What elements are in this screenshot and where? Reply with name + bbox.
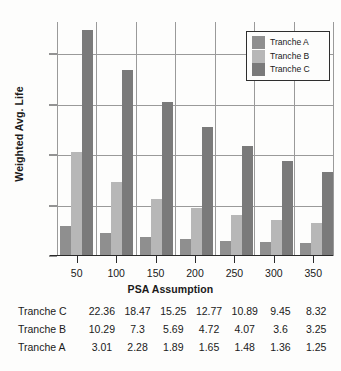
table-cell: 3.01 [84,341,120,353]
table-cell: 5.69 [155,323,191,335]
y-tick-mark [49,54,57,55]
x-tick-label-50: 50 [57,267,97,279]
bar-tranche-a-50 [60,226,71,256]
bar-tranche-c-200 [202,127,213,256]
chart-legend: Tranche A Tranche B Tranche C [246,31,330,81]
table-row: Tranche A3.012.281.891.651.481.361.25 [0,338,341,356]
table-cell: 10.89 [227,305,263,317]
x-tick-label-300: 300 [254,267,294,279]
x-tick-label-200: 200 [175,267,215,279]
y-tick-mark [49,104,57,105]
x-tick-mark [156,256,157,263]
table-cell: 9.45 [263,305,299,317]
table-cell: 1.25 [298,341,334,353]
bar-tranche-b-50 [71,152,82,256]
y-axis-title: Weighted Avg. Life [13,54,25,214]
bar-tranche-b-150 [151,199,162,256]
x-tick-label-100: 100 [96,267,136,279]
table-cell: 1.36 [263,341,299,353]
bar-tranche-b-100 [111,182,122,256]
table-cell: 4.72 [191,323,227,335]
table-cell: 1.65 [191,341,227,353]
legend-item-tranche-b: Tranche B [252,50,325,64]
table-cell: 2.28 [120,341,156,353]
table-row: Tranche B10.297.35.694.724.073.63.25 [0,320,341,338]
table-cell: 15.25 [155,305,191,317]
bar-tranche-c-100 [122,70,133,256]
bar-tranche-a-100 [100,233,111,256]
bar-tranche-a-300 [260,242,271,256]
bar-tranche-c-250 [242,146,253,256]
table-cell: 3.25 [298,323,334,335]
x-tick-mark [274,256,275,263]
bar-tranche-a-150 [140,237,151,256]
bar-tranche-c-350 [322,172,333,256]
x-tick-label-350: 350 [293,267,333,279]
legend-swatch-icon-tranche-b [252,50,265,63]
table-row-cells: 22.3618.4715.2512.7710.899.458.32 [84,305,334,317]
bar-group-200 [177,22,217,256]
bar-tranche-a-200 [180,239,191,256]
table-cell: 4.07 [227,323,263,335]
bar-tranche-c-50 [82,30,93,256]
bar-tranche-b-300 [271,220,282,256]
table-row-header: Tranche A [18,341,84,353]
table-row-header: Tranche B [18,323,84,335]
bar-tranche-c-150 [162,102,173,256]
bar-tranche-a-250 [220,241,231,256]
bar-group-100 [97,22,137,256]
x-tick-mark [313,256,314,263]
x-tick-label-250: 250 [214,267,254,279]
x-tick-mark [195,256,196,263]
x-tick-mark [234,256,235,263]
legend-item-tranche-a: Tranche A [252,36,325,50]
x-tick-mark [77,256,78,263]
bar-tranche-b-350 [311,223,322,256]
y-tick-mark [49,155,57,156]
bar-tranche-b-200 [191,208,202,256]
x-tick-mark [116,256,117,263]
y-tick-mark [49,205,57,206]
chart-plot-area: Weighted Avg. Life 05101520 501001502002… [0,0,341,300]
table-cell: 22.36 [84,305,120,317]
table-cell: 18.47 [120,305,156,317]
table-row: Tranche C22.3618.4715.2512.7710.899.458.… [0,302,341,320]
chart-figure: Weighted Avg. Life 05101520 501001502002… [0,0,341,371]
table-row-cells: 3.012.281.891.651.481.361.25 [84,341,334,353]
table-cell: 7.3 [120,323,156,335]
legend-swatch-icon-tranche-c [252,63,265,76]
x-axis-title: PSA Assumption [0,283,341,295]
bar-tranche-c-300 [282,161,293,256]
table-cell: 12.77 [191,305,227,317]
x-tick-label-150: 150 [136,267,176,279]
table-row-header: Tranche C [18,305,84,317]
legend-swatch-icon-tranche-a [252,36,265,49]
legend-label-tranche-b: Tranche B [270,52,309,61]
bar-group-50 [57,22,97,256]
table-cell: 8.32 [298,305,334,317]
legend-label-tranche-c: Tranche C [270,65,310,74]
table-cell: 1.89 [155,341,191,353]
legend-item-tranche-c: Tranche C [252,63,325,77]
data-table: Tranche C22.3618.4715.2512.7710.899.458.… [0,302,341,364]
bar-group-150 [137,22,177,256]
table-row-cells: 10.297.35.694.724.073.63.25 [84,323,334,335]
table-cell: 1.48 [227,341,263,353]
legend-label-tranche-a: Tranche A [270,38,309,47]
bar-tranche-b-250 [231,215,242,256]
table-cell: 10.29 [84,323,120,335]
table-cell: 3.6 [263,323,299,335]
